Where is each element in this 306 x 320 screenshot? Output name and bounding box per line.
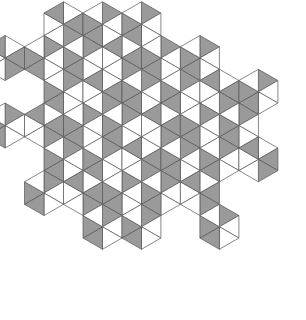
rhombus-half-triangle <box>0 36 5 59</box>
rhombus-half-triangle <box>0 126 5 149</box>
tessellation-figure <box>0 0 306 320</box>
rhombus-half-triangle <box>0 58 5 81</box>
tile-group <box>0 2 278 250</box>
rhombus-half-triangle <box>0 103 5 126</box>
